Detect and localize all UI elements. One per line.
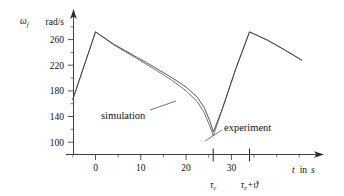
x-tick-label-30: 30 <box>227 163 237 173</box>
tau-c-subscript: c <box>213 184 216 191</box>
x-axis-caption-group: tins <box>292 165 315 175</box>
y-tick-label-180: 180 <box>50 86 65 96</box>
tau-c-label: τc <box>210 180 216 191</box>
y-tick-label-220: 220 <box>50 61 65 71</box>
tau-c-theta-suffix: +ϑ <box>247 180 259 190</box>
y-ticks-group <box>68 27 74 142</box>
y-tick-label-140: 140 <box>50 112 65 122</box>
chart-svg: 260 220 180 140 100 rad/s ωf <box>0 0 344 196</box>
annotation-simulation: simulation <box>101 110 146 121</box>
axes-group <box>66 9 324 158</box>
simulation-leader-line <box>150 101 176 110</box>
x-axis-label-t: t <box>292 165 295 175</box>
chart-figure: 260 220 180 140 100 rad/s ωf <box>0 0 344 196</box>
y-symbol-label: ωf <box>20 16 30 28</box>
x-tick-labels: 0 10 20 30 <box>93 163 236 173</box>
y-tick-label-100: 100 <box>50 138 65 148</box>
annotation-experiment: experiment <box>224 122 271 133</box>
y-axis-caption-group: rad/s ωf <box>20 16 64 28</box>
x-tick-label-0: 0 <box>93 163 98 173</box>
x-axis-label-in: in <box>300 165 308 175</box>
y-unit-label: rad/s <box>46 17 65 27</box>
y-tick-labels: 260 220 180 140 100 <box>50 35 65 148</box>
x-ticks-group <box>73 155 299 161</box>
y-symbol-subscript: f <box>27 21 30 28</box>
x-tick-label-20: 20 <box>181 163 191 173</box>
annotations-group: simulation experiment <box>101 101 271 141</box>
tau-c-theta-label: τc+ϑ <box>241 180 260 191</box>
y-tick-label-260: 260 <box>50 35 65 45</box>
x-axis-label-s: s <box>311 165 315 175</box>
x-axis-label: tins <box>292 165 315 175</box>
x-tick-label-10: 10 <box>136 163 146 173</box>
